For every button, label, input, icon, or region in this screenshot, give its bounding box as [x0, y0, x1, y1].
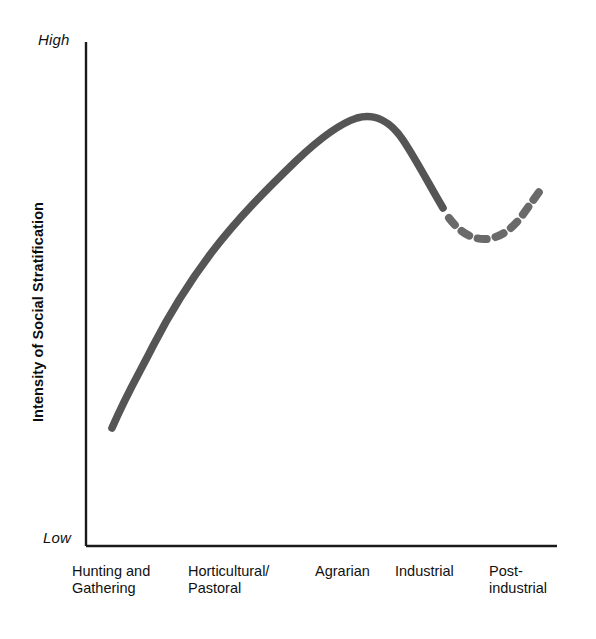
x-tick-label-industrial: Industrial — [395, 563, 454, 580]
chart-plot-area — [0, 0, 596, 639]
x-tick-label-post-industrial: Post- industrial — [489, 563, 547, 597]
x-tick-label-agrarian: Agrarian — [315, 563, 370, 580]
series-line-dashed — [449, 189, 541, 239]
x-tick-label-hunting-and-gathering: Hunting and Gathering — [72, 563, 150, 597]
y-axis-high-label: High — [38, 31, 70, 48]
y-axis-low-label: Low — [43, 529, 71, 546]
chart-figure: High Low Intensity of Social Stratificat… — [0, 0, 596, 639]
x-tick-label-horticultural-pastoral: Horticultural/ Pastoral — [188, 563, 269, 597]
series-line-solid — [112, 117, 443, 428]
y-axis-title: Intensity of Social Stratification — [30, 187, 46, 437]
